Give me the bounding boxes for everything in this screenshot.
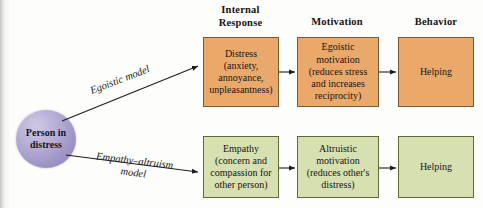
helping-box-egoistic: Helping xyxy=(398,37,474,107)
egoistic-motivation-box-line1: Egoistic xyxy=(309,41,368,53)
diagram-canvas: Internal Response Motivation Behavior Pe… xyxy=(0,0,483,208)
egoistic-motivation-box-line5: reciprocity) xyxy=(309,90,368,102)
distress-box-line4: unpleasantness) xyxy=(209,84,272,96)
altruistic-motivation-box-line2: motivation xyxy=(307,155,370,167)
helping-box-altruistic-line1: Helping xyxy=(420,161,452,173)
distress-box-line2: (anxiety, xyxy=(209,60,272,72)
egoistic-motivation-box-line4: and increases xyxy=(309,78,368,90)
distress-box-line3: annoyance, xyxy=(209,72,272,84)
egoistic-motivation-box: Egoistic motivation (reduces stress and … xyxy=(297,37,379,107)
egoistic-motivation-box-line3: (reduces stress xyxy=(309,66,368,78)
altruistic-motivation-box: Altruistic motivation (reduces other's d… xyxy=(297,136,379,198)
empathy-box-line4: other person) xyxy=(210,179,271,191)
empathy-box-line2: (concern and xyxy=(210,155,271,167)
distress-box: Distress (anxiety, annoyance, unpleasant… xyxy=(203,37,279,107)
altruistic-motivation-box-line3: (reduces other's xyxy=(307,167,370,179)
empathy-box-line3: compassion for xyxy=(210,167,271,179)
empathy-box: Empathy (concern and compassion for othe… xyxy=(203,136,279,198)
egoistic-motivation-box-line2: motivation xyxy=(309,54,368,66)
altruistic-motivation-box-line1: Altruistic xyxy=(307,143,370,155)
altruistic-motivation-box-line4: distress) xyxy=(307,179,370,191)
helping-box-altruistic: Helping xyxy=(398,136,474,198)
helping-box-egoistic-line1: Helping xyxy=(420,66,452,78)
distress-box-line1: Distress xyxy=(209,48,272,60)
empathy-box-line1: Empathy xyxy=(210,143,271,155)
